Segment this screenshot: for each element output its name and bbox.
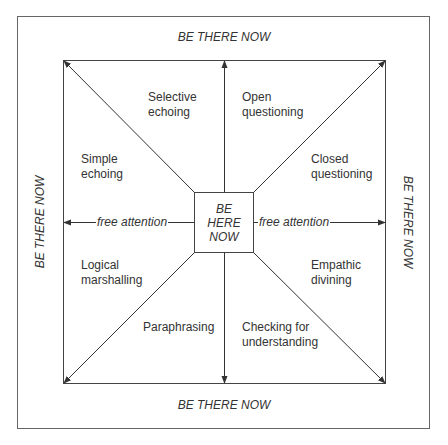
- segment-logical-marshalling: Logical marshalling: [81, 258, 142, 288]
- segment-line: Simple: [81, 152, 123, 167]
- label-right: BE THERE NOW: [401, 176, 415, 269]
- segment-empathic-divining: Empathic divining: [311, 258, 361, 288]
- segment-line: echoing: [148, 105, 197, 120]
- segment-line: Selective: [148, 90, 197, 105]
- label-top: BE THERE NOW: [0, 30, 448, 44]
- center-line-1: BE: [216, 202, 232, 216]
- segment-line: Paraphrasing: [143, 320, 214, 335]
- center-line-2: HERE: [207, 216, 240, 230]
- free-attention-right: free attention: [258, 215, 330, 229]
- segment-open-questioning: Open questioning: [242, 90, 303, 120]
- segment-selective-echoing: Selective echoing: [148, 90, 197, 120]
- segment-line: Logical: [81, 258, 142, 273]
- segment-line: Checking for: [242, 320, 318, 335]
- segment-closed-questioning: Closed questioning: [311, 152, 372, 182]
- label-left: BE THERE NOW: [33, 176, 47, 269]
- segment-line: understanding: [242, 335, 318, 350]
- segment-line: Empathic: [311, 258, 361, 273]
- segment-paraphrasing: Paraphrasing: [143, 320, 214, 335]
- segment-line: echoing: [81, 167, 123, 182]
- be-here-now-box: BE HERE NOW: [195, 193, 253, 252]
- segment-line: divining: [311, 273, 361, 288]
- segment-line: questioning: [242, 105, 303, 120]
- segment-line: questioning: [311, 167, 372, 182]
- segment-simple-echoing: Simple echoing: [81, 152, 123, 182]
- center-line-3: NOW: [209, 230, 238, 244]
- segment-line: Open: [242, 90, 303, 105]
- free-attention-left: free attention: [96, 215, 168, 229]
- segment-line: Closed: [311, 152, 372, 167]
- segment-line: marshalling: [81, 273, 142, 288]
- label-bottom: BE THERE NOW: [0, 398, 448, 412]
- segment-checking-for-understanding: Checking for understanding: [242, 320, 318, 350]
